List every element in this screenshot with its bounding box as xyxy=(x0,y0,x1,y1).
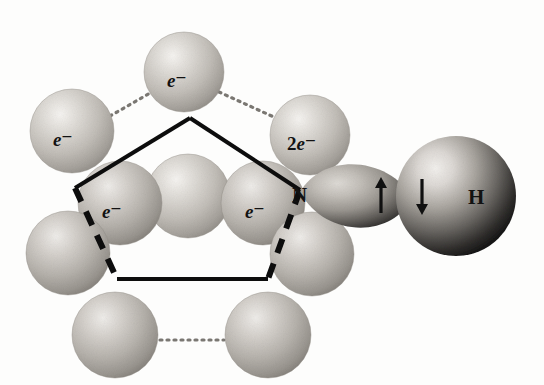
surface-atoms-layer xyxy=(26,32,354,378)
surface-atom-bottom-right xyxy=(225,292,311,378)
diagram-canvas xyxy=(0,0,544,385)
dotted-link-upper-left xyxy=(110,93,150,116)
surface-atom-left-lower xyxy=(26,211,110,295)
surface-atom-upper-right xyxy=(270,95,350,175)
orbital-diagram-figure: e−e−2e−e−e−NH xyxy=(0,0,544,385)
surface-atom-bottom-left xyxy=(72,292,158,378)
dotted-link-upper-right xyxy=(219,92,276,118)
surface-atom-upper-left xyxy=(30,89,114,173)
surface-atom-top xyxy=(144,32,224,112)
hydrogen-atom xyxy=(396,136,516,256)
